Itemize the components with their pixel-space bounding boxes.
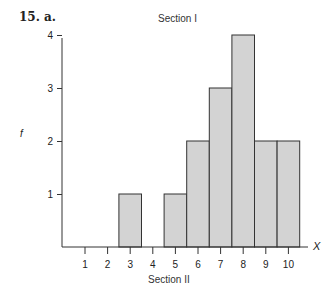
y-tick-label: 2	[47, 136, 53, 147]
histogram: 123412345678910	[0, 0, 334, 300]
x-tick-label: 6	[195, 259, 201, 270]
x-tick-label: 3	[127, 259, 133, 270]
x-tick-label: 1	[82, 259, 88, 270]
histogram-bar	[277, 141, 300, 247]
histogram-bar	[164, 194, 187, 247]
x-tick-label: 4	[150, 259, 156, 270]
x-tick-label: 7	[218, 259, 224, 270]
y-tick-label: 4	[47, 30, 53, 41]
histogram-bar	[255, 141, 278, 247]
x-tick-label: 8	[240, 259, 246, 270]
histogram-bar	[232, 35, 255, 247]
histogram-bar	[187, 141, 210, 247]
y-tick-label: 3	[47, 83, 53, 94]
histogram-bar	[209, 88, 232, 247]
x-tick-label: 2	[105, 259, 111, 270]
x-tick-label: 9	[263, 259, 269, 270]
x-tick-label: 5	[173, 259, 179, 270]
histogram-bar	[119, 194, 142, 247]
x-tick-label: 10	[283, 259, 295, 270]
y-tick-label: 1	[47, 189, 53, 200]
